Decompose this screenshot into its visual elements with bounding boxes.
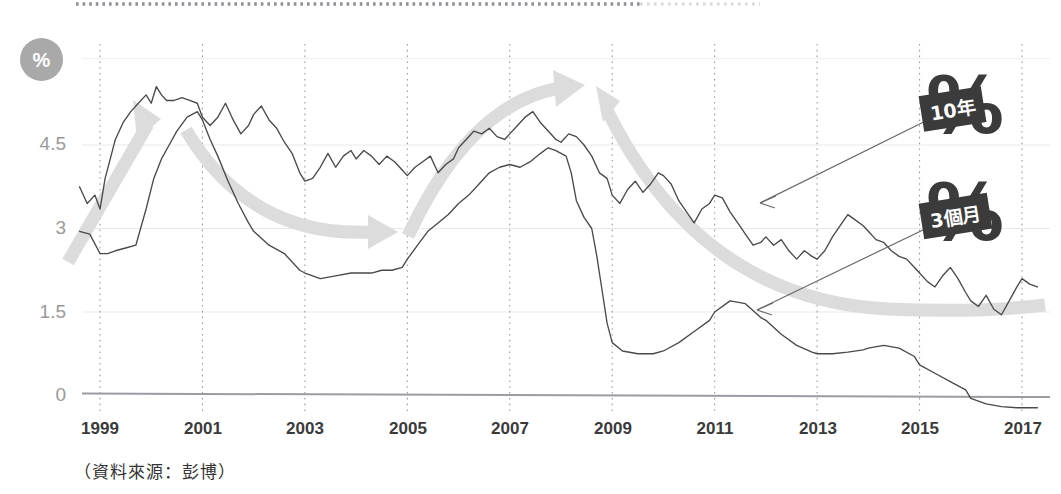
x-tick-2009: 2009	[578, 419, 648, 439]
y-tick-4.5: 4.5	[8, 133, 66, 155]
x-tick-2005: 2005	[373, 419, 443, 439]
trend-arrows	[68, 70, 1045, 310]
legend-badge-10y: % 10年	[915, 63, 1015, 149]
y-tick-0: 0	[8, 384, 66, 406]
trend-arrow-fall-2001	[186, 130, 398, 249]
series-line-3個月	[80, 112, 1038, 408]
x-tick-1999: 1999	[65, 419, 135, 439]
x-tick-2003: 2003	[270, 419, 340, 439]
x-tick-2011: 2011	[680, 419, 750, 439]
legend-badge-3m: % 3個月	[915, 170, 1015, 256]
y-tick-1.5: 1.5	[8, 301, 66, 323]
x-tick-2001: 2001	[168, 419, 238, 439]
trend-arrow-rise-1999	[68, 100, 161, 262]
chart-root: %	[0, 0, 1061, 494]
zero-axis-line	[82, 394, 1050, 398]
trend-arrow-rise-2005	[408, 70, 585, 236]
series-line-10年	[80, 87, 1038, 315]
source-note: （資料來源：彭博）	[74, 458, 236, 483]
x-tick-2013: 2013	[783, 419, 853, 439]
data-series-layer	[80, 87, 1038, 408]
x-tick-2017: 2017	[988, 419, 1058, 439]
x-tick-2015: 2015	[885, 419, 955, 439]
y-tick-3: 3	[8, 217, 66, 239]
x-tick-2007: 2007	[475, 419, 545, 439]
